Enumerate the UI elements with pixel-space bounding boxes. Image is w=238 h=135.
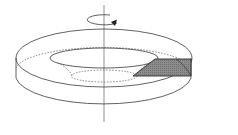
solid-of-revolution-figure: Solid of revolution: ring-shaped disk wi…	[0, 0, 238, 135]
shaded-cross-section	[133, 59, 191, 76]
rotation-arrow-icon	[87, 15, 117, 26]
outer-bottom-rim	[16, 78, 191, 104]
diagram-canvas	[0, 0, 238, 135]
